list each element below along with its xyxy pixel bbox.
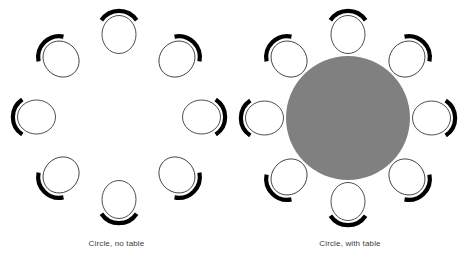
panel-circle-no-table: Circle, no table: [0, 0, 233, 264]
seat-outline-icon: [331, 183, 365, 221]
seat-1-seat-top: [101, 11, 136, 54]
seat-outline-icon: [331, 16, 365, 54]
seat-1-seat-top: [330, 11, 365, 54]
seat-5-seat-bottom: [330, 183, 365, 226]
caption-circle-no-table: Circle, no table: [0, 238, 233, 249]
seat-7-seat-left: [241, 100, 284, 135]
seat-group-left: [13, 11, 225, 223]
seat-outline-icon: [18, 100, 56, 134]
seating-diagram: Circle, no table Circle, with table: [0, 0, 467, 264]
seat-6-seat-lower-left: [32, 149, 87, 204]
panel-circle-with-table: Circle, with table: [233, 0, 467, 264]
seat-7-seat-left: [13, 99, 56, 134]
seat-5-seat-bottom: [101, 181, 136, 224]
seat-outline-icon: [246, 101, 284, 135]
table-circle: [286, 56, 410, 180]
seat-outline-icon: [183, 100, 221, 134]
seat-3-seat-right: [183, 99, 226, 134]
svg-circle-with-table: [233, 0, 467, 232]
seat-2-seat-upper-right: [151, 30, 206, 85]
stage-circle-no-table: [0, 0, 233, 232]
seat-outline-icon: [102, 181, 136, 219]
svg-circle-no-table: [0, 0, 233, 232]
seat-8-seat-upper-left: [32, 30, 87, 85]
seat-4-seat-lower-right: [151, 149, 206, 204]
seat-3-seat-right: [413, 100, 456, 135]
seat-outline-icon: [102, 16, 136, 54]
seat-outline-icon: [413, 101, 451, 135]
table-group-right: [286, 56, 410, 180]
caption-circle-with-table: Circle, with table: [233, 238, 467, 249]
stage-circle-with-table: [233, 0, 467, 232]
